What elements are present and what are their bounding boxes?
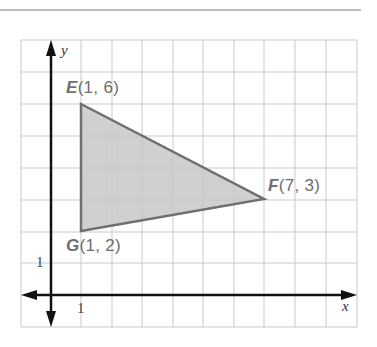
point-label-f: F(7, 3): [268, 176, 320, 196]
x-axis-label: x: [342, 298, 349, 315]
point-label-e: E(1, 6): [66, 78, 119, 98]
y-axis-up-arrow-icon: [46, 40, 56, 56]
x-axis-left-arrow-icon: [21, 290, 37, 300]
y-tick-label: 1: [36, 254, 44, 271]
point-label-g: G(1, 2): [66, 236, 121, 256]
y-axis-label: y: [61, 42, 68, 59]
x-tick-label: 1: [77, 300, 85, 317]
coordinate-plane: [0, 0, 377, 347]
y-axis-down-arrow-icon: [46, 311, 56, 327]
